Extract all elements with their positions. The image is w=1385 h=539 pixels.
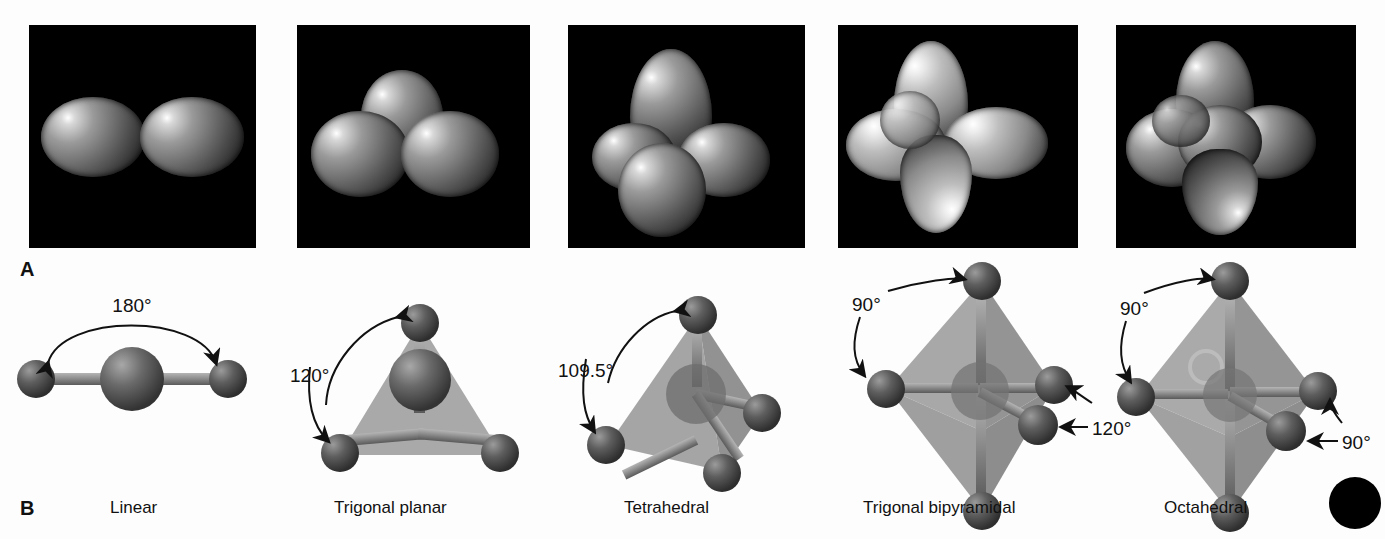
caption-trigonal-bipyramidal: Trigonal bipyramidal bbox=[863, 498, 1015, 518]
angle-label: 90° bbox=[1342, 432, 1371, 453]
angle-label: 90° bbox=[1120, 298, 1149, 319]
model-tetrahedral: 109.5° bbox=[550, 255, 830, 539]
terminal-atom bbox=[963, 262, 1001, 300]
central-atom bbox=[951, 362, 1009, 420]
terminal-atom bbox=[743, 394, 781, 432]
balloon-photo-trigonal-planar bbox=[297, 25, 530, 248]
balloon bbox=[1152, 95, 1210, 147]
angle-label: 180° bbox=[112, 295, 151, 316]
terminal-atom bbox=[587, 426, 625, 464]
balloon-photo-row bbox=[0, 0, 1385, 250]
angle-label: 109.5° bbox=[558, 360, 613, 381]
balloon bbox=[618, 143, 706, 237]
vsepr-geometry-figure: A bbox=[0, 0, 1385, 539]
angle-arc bbox=[1330, 401, 1342, 423]
balloon-photo-tetrahedral bbox=[568, 25, 805, 248]
caption-octahedral: Octahedral bbox=[1164, 498, 1247, 518]
terminal-atom bbox=[209, 360, 247, 398]
terminal-atom bbox=[703, 454, 741, 492]
balloon bbox=[401, 111, 499, 197]
panel-letter-b: B bbox=[20, 497, 34, 520]
model-trigonal-planar: 120° bbox=[270, 255, 550, 539]
terminal-atom bbox=[867, 370, 905, 408]
central-atom bbox=[1203, 368, 1257, 422]
angle-label: 120° bbox=[290, 365, 329, 386]
balloon bbox=[41, 97, 145, 177]
angle-arc bbox=[1068, 387, 1092, 403]
angle-arc bbox=[1144, 279, 1212, 293]
terminal-atom bbox=[1211, 262, 1249, 300]
terminal-atom bbox=[1035, 366, 1073, 404]
angle-arc bbox=[888, 279, 964, 292]
model-linear: 180° bbox=[0, 255, 270, 539]
terminal-atom bbox=[679, 296, 717, 334]
caption-trigonal-planar: Trigonal planar bbox=[334, 498, 447, 518]
ball-and-stick-row: 180° bbox=[0, 255, 1385, 539]
terminal-atom bbox=[401, 304, 439, 342]
terminal-atom bbox=[1117, 378, 1155, 416]
balloon bbox=[900, 135, 972, 233]
balloon bbox=[880, 91, 940, 149]
central-atom bbox=[389, 349, 451, 411]
balloon bbox=[311, 111, 409, 197]
angle-arc bbox=[1121, 321, 1130, 381]
caption-linear: Linear bbox=[110, 498, 157, 518]
angle-arc bbox=[854, 317, 864, 375]
angle-label: 90° bbox=[852, 294, 881, 315]
central-atom bbox=[100, 347, 164, 411]
model-trigonal-bipyramidal: 90° 120° bbox=[830, 255, 1120, 539]
terminal-atom bbox=[481, 434, 519, 472]
corner-dot-mark bbox=[1329, 477, 1381, 529]
central-atom bbox=[666, 364, 726, 424]
balloon-photo-octahedral bbox=[1116, 25, 1356, 248]
balloon bbox=[1182, 149, 1258, 235]
balloon bbox=[140, 97, 244, 177]
terminal-atom bbox=[1018, 405, 1058, 445]
caption-tetrahedral: Tetrahedral bbox=[624, 498, 709, 518]
balloon-photo-linear bbox=[29, 25, 256, 248]
terminal-atom bbox=[17, 360, 55, 398]
terminal-atom bbox=[1266, 411, 1306, 451]
balloon-photo-trigonal-bipyramidal bbox=[838, 25, 1078, 248]
